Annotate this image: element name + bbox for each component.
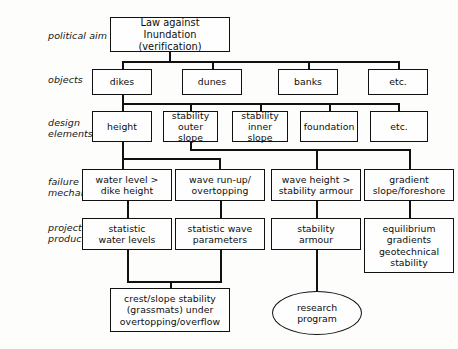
connector-stab-outer-bus xyxy=(190,149,410,151)
node-product-statistic-wave-parameters[interactable]: statistic wave parameters xyxy=(175,218,265,250)
connector-objects-bus xyxy=(122,61,399,63)
connector-gradient-to-equilibrium xyxy=(409,201,411,218)
row-label-political-aim: political aim xyxy=(48,30,107,41)
connector-water-level-to-stat-water xyxy=(127,201,129,218)
node-failure-gradient[interactable]: gradient slope/foreshore xyxy=(364,169,454,201)
node-design-stability-outer-slope[interactable]: stability outer slope xyxy=(163,111,218,142)
node-failure-wave-runup[interactable]: wave run-up/ overtopping xyxy=(175,169,265,201)
connector-branch-to-wave-runup xyxy=(219,158,221,169)
node-design-stability-inner-slope[interactable]: stability inner slope xyxy=(232,111,288,142)
connector-wave-height-to-stab-armour xyxy=(316,201,318,218)
connector-objects-banks xyxy=(308,61,310,69)
connector-stat-wave-down xyxy=(220,250,222,282)
row-label-objects: objects xyxy=(48,74,83,85)
connector-bus-to-gradient xyxy=(409,149,411,169)
node-product-stability-armour[interactable]: stability armour xyxy=(271,218,361,250)
row-label-design-elements: design elements xyxy=(48,117,93,139)
connector-objects-dunes xyxy=(212,61,214,69)
connector-wave-runup-to-stat-wave xyxy=(220,201,222,218)
node-design-etc[interactable]: etc. xyxy=(370,111,428,142)
connector-bus-to-wave-height xyxy=(316,149,318,169)
connector-objects-dikes xyxy=(122,61,124,69)
connector-objects-etc xyxy=(398,61,400,69)
node-failure-water-level[interactable]: water level > dike height xyxy=(82,169,172,201)
connector-design-foundation xyxy=(329,103,331,111)
connector-stat-water-down xyxy=(127,250,129,282)
node-output-research-program[interactable]: research program xyxy=(272,291,362,335)
node-object-dunes[interactable]: dunes xyxy=(182,69,242,95)
connector-design-height xyxy=(122,103,124,111)
node-product-equilibrium-gradients[interactable]: equilibrium gradients geotechnical stabi… xyxy=(364,218,454,273)
node-object-banks[interactable]: banks xyxy=(278,69,338,95)
connector-stab-armour-to-research xyxy=(316,250,318,291)
node-design-height[interactable]: height xyxy=(92,111,152,142)
flow-diagram: political aim objects design elements fa… xyxy=(0,0,458,349)
node-output-crest-slope-stability[interactable]: crest/slope stability (grassmats) under … xyxy=(110,288,230,332)
connector-height-to-water-level xyxy=(122,142,124,169)
connector-merge-bus xyxy=(127,281,222,283)
node-design-foundation[interactable]: foundation xyxy=(300,111,358,142)
node-product-statistic-water-levels[interactable]: statistic water levels xyxy=(82,218,172,250)
node-root[interactable]: Law against Inundation (verification) xyxy=(110,17,230,52)
connector-design-etc xyxy=(398,103,400,111)
connector-height-branch xyxy=(122,158,221,160)
node-failure-wave-height[interactable]: wave height > stability armour xyxy=(271,169,361,201)
node-object-dikes[interactable]: dikes xyxy=(92,69,152,95)
node-object-etc[interactable]: etc. xyxy=(368,69,428,95)
